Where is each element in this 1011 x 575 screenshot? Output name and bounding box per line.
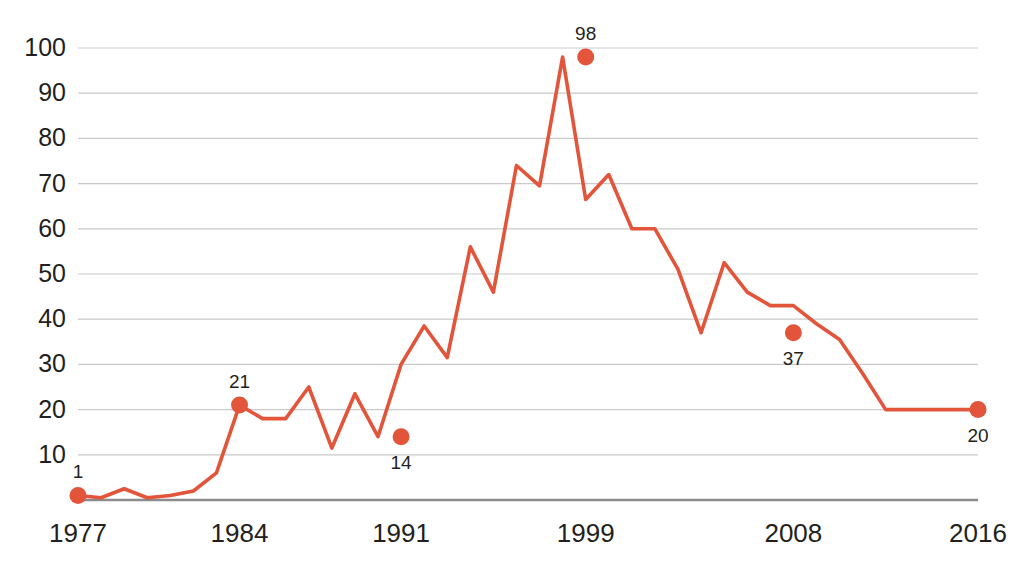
data-line-series: [78, 57, 978, 498]
data-point-marker: [70, 487, 87, 504]
x-axis-tick-label: 2016: [918, 520, 1011, 546]
data-point-marker: [393, 428, 410, 445]
data-point-marker: [785, 324, 802, 341]
data-point-value-label: 98: [546, 24, 626, 43]
y-axis-tick-label: 90: [38, 80, 66, 105]
data-point-marker: [970, 401, 987, 418]
data-point-value-label: 1: [38, 462, 118, 481]
y-axis-tick-label: 80: [38, 125, 66, 150]
x-axis-tick-label: 2008: [733, 520, 853, 546]
data-point-value-label: 14: [361, 453, 441, 472]
y-axis-tick-label: 30: [38, 351, 66, 376]
y-axis-tick-label: 70: [38, 171, 66, 196]
x-axis-tick-label: 1991: [341, 520, 461, 546]
x-axis-tick-label: 1999: [526, 520, 646, 546]
y-axis-tick-label: 40: [38, 306, 66, 331]
x-axis-tick-label: 1977: [18, 520, 138, 546]
y-axis-tick-label: 100: [24, 35, 66, 60]
y-axis-tick-label: 60: [38, 216, 66, 241]
data-point-marker: [231, 397, 248, 414]
data-point-markers: [70, 49, 987, 504]
gridlines: [78, 48, 978, 455]
data-point-marker: [577, 49, 594, 66]
data-point-value-label: 37: [753, 349, 833, 368]
x-axis-tick-label: 1984: [180, 520, 300, 546]
data-point-value-label: 20: [938, 426, 1011, 445]
y-axis-tick-label: 20: [38, 397, 66, 422]
y-axis-tick-label: 50: [38, 261, 66, 286]
data-point-value-label: 21: [200, 372, 280, 391]
